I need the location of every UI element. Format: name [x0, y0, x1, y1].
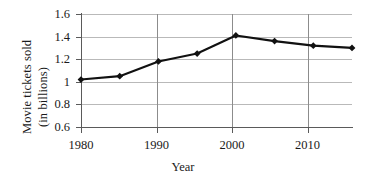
x-axis-title: Year: [0, 160, 366, 175]
data-point-1990: [155, 58, 162, 65]
data-point-2005: [271, 38, 278, 45]
chart-figure: Movie tickets sold (in billions) 1.6 1.4…: [0, 0, 366, 188]
series-markers: [78, 32, 356, 83]
data-point-2000: [232, 32, 239, 39]
data-point-1995: [194, 50, 201, 57]
data-point-1980: [78, 76, 85, 83]
data-point-2010: [310, 42, 317, 49]
series-line: [81, 35, 352, 79]
data-point-1985: [116, 73, 123, 80]
data-point-2015: [349, 45, 356, 52]
